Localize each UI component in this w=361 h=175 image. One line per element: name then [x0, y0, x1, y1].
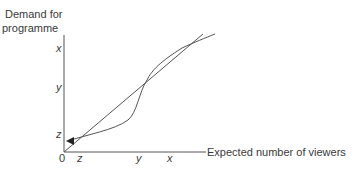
s-curve	[68, 34, 215, 141]
diagram: Demand for programme x y z 0 z y x Expec…	[0, 0, 361, 175]
arrow-icon	[66, 137, 74, 145]
y-axis-label-line2: programme	[2, 22, 58, 34]
y-tick-x: x	[55, 42, 62, 54]
x-tick-y: y	[135, 152, 143, 164]
y-tick-z: z	[55, 128, 62, 140]
x-tick-x: x	[166, 152, 173, 164]
x-axis-label: Expected number of viewers	[207, 146, 346, 158]
origin-label: 0	[59, 152, 65, 164]
x-tick-z: z	[76, 152, 83, 164]
y-axis-label-line1: Demand for	[5, 8, 63, 20]
y-tick-y: y	[55, 81, 63, 93]
45-degree-line	[64, 34, 203, 152]
